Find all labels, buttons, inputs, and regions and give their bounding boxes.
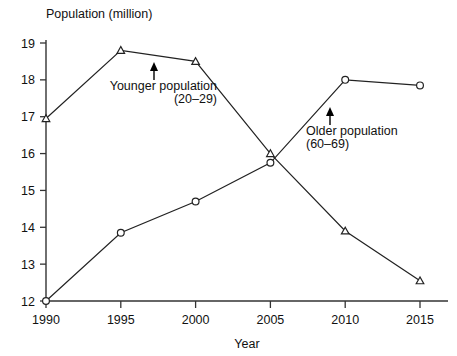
series-younger bbox=[42, 47, 424, 284]
y-tick-label: 18 bbox=[21, 73, 35, 87]
series-line bbox=[46, 80, 420, 301]
y-tick-label: 12 bbox=[21, 295, 35, 309]
annotation-older: Older population(60–69) bbox=[306, 107, 398, 151]
x-axis-ticks: 199019952000200520102015 bbox=[32, 301, 434, 327]
data-point-marker bbox=[117, 47, 125, 54]
y-tick-label: 17 bbox=[21, 110, 35, 124]
series-older bbox=[43, 76, 424, 304]
annotation-arrow-head-icon bbox=[150, 62, 158, 71]
data-point-marker bbox=[342, 76, 349, 83]
data-point-marker bbox=[117, 229, 124, 236]
y-tick-label: 14 bbox=[21, 221, 35, 235]
data-point-marker bbox=[417, 82, 424, 89]
data-point-marker bbox=[267, 159, 274, 166]
annotation-arrow-head-icon bbox=[326, 107, 334, 116]
y-tick-label: 19 bbox=[21, 37, 35, 51]
data-point-marker bbox=[43, 298, 50, 305]
y-axis-ticks: 1213141516171819 bbox=[21, 37, 46, 309]
x-tick-label: 2000 bbox=[182, 313, 210, 327]
data-point-marker bbox=[416, 277, 424, 284]
y-tick-label: 15 bbox=[21, 184, 35, 198]
annotation-label-line1: Older population bbox=[306, 124, 398, 138]
x-tick-label: 1995 bbox=[107, 313, 135, 327]
x-tick-label: 2010 bbox=[331, 313, 359, 327]
annotation-label-line2: (60–69) bbox=[306, 137, 349, 151]
chart-canvas: Population (million) 1213141516171819 19… bbox=[0, 0, 457, 356]
series-layer bbox=[42, 47, 424, 305]
series-line bbox=[46, 50, 420, 280]
annotation-label-line1: Younger population bbox=[110, 79, 217, 93]
annotation-label-line2: (20–29) bbox=[174, 92, 217, 106]
data-point-marker bbox=[192, 198, 199, 205]
x-tick-label: 1990 bbox=[32, 313, 60, 327]
y-tick-label: 16 bbox=[21, 147, 35, 161]
population-line-chart: Population (million) 1213141516171819 19… bbox=[0, 0, 457, 356]
x-axis-label: Year bbox=[234, 337, 259, 351]
x-tick-label: 2005 bbox=[256, 313, 284, 327]
y-tick-label: 13 bbox=[21, 258, 35, 272]
chart-title: Population (million) bbox=[46, 7, 152, 21]
annotation-layer: Younger population(20–29)Older populatio… bbox=[110, 62, 398, 151]
x-tick-label: 2015 bbox=[406, 313, 434, 327]
